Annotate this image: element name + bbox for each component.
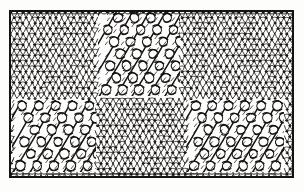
knitted-swatch-illustration [11, 12, 292, 176]
figure-root: Knitted fabric swatch with diagonal lace… [0, 0, 304, 192]
swatch-frame [9, 10, 294, 178]
